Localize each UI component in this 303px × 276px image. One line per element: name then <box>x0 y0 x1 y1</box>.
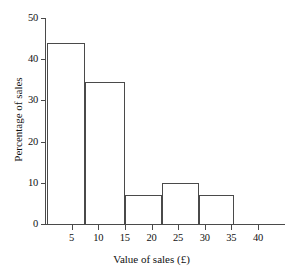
x-tick-mark <box>152 225 153 230</box>
x-tick-mark <box>98 225 99 230</box>
y-tick-mark <box>41 100 46 101</box>
y-tick-mark <box>41 224 46 225</box>
x-tick-label: 35 <box>219 232 243 243</box>
histogram-bar <box>85 82 125 224</box>
x-tick-label: 25 <box>166 232 190 243</box>
y-tick-mark <box>41 183 46 184</box>
y-tick-label: 0 <box>16 219 38 230</box>
x-tick-label: 30 <box>193 232 217 243</box>
x-tick-label: 5 <box>60 232 84 243</box>
x-axis-line <box>45 224 285 225</box>
histogram-bar <box>125 195 162 224</box>
y-tick-mark <box>41 59 46 60</box>
y-tick-mark <box>41 18 46 19</box>
histogram-bar <box>199 195 234 224</box>
histogram-bar <box>47 43 85 224</box>
y-tick-label: 50 <box>16 13 38 24</box>
x-tick-label: 10 <box>86 232 110 243</box>
histogram-chart: 01020304050 510152025303540 Value of sal… <box>0 0 303 276</box>
x-axis-title: Value of sales (£) <box>0 253 303 266</box>
x-tick-label: 40 <box>246 232 270 243</box>
x-tick-label: 15 <box>113 232 137 243</box>
y-axis-title: Percentage of sales <box>12 50 25 190</box>
x-tick-mark <box>178 225 179 230</box>
x-tick-mark <box>258 225 259 230</box>
x-tick-mark <box>72 225 73 230</box>
histogram-bar <box>162 183 199 224</box>
x-tick-mark <box>125 225 126 230</box>
x-tick-label: 20 <box>140 232 164 243</box>
x-tick-mark <box>231 225 232 230</box>
y-tick-mark <box>41 142 46 143</box>
x-tick-mark <box>205 225 206 230</box>
